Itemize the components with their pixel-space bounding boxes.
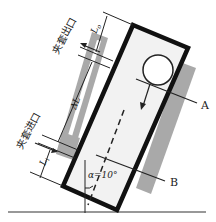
dim-ext-top: [103, 12, 133, 25]
dim-lo-label: Lo: [88, 22, 102, 36]
jacket-outlet-label: 夹套出口: [49, 15, 78, 56]
dim-ext-bottom: [30, 172, 63, 186]
angle-label: α=10°: [88, 170, 118, 180]
tilted-tube-diagram: A B Lo 夹套出口 ΔL 夹套进口 Li α=10°: [0, 0, 216, 222]
bubble-circle: [143, 55, 173, 85]
section-label-a: A: [200, 99, 210, 112]
inlet-arrow-shaft: [35, 143, 55, 151]
section-label-b: B: [170, 176, 178, 189]
dim-li-label: Li: [37, 156, 50, 168]
